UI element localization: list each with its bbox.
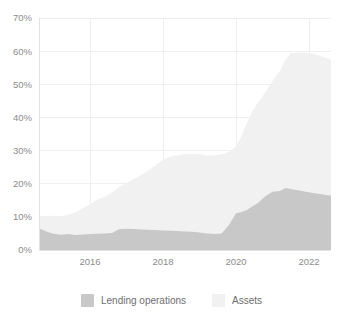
chart-legend: Lending operationsAssets xyxy=(0,294,343,307)
x-axis-tick-label: 2020 xyxy=(226,256,247,267)
x-axis-tick-label: 2022 xyxy=(299,256,320,267)
series-areas xyxy=(39,52,331,250)
y-axis-tick-label: 50% xyxy=(13,79,33,90)
y-axis-tick-label: 70% xyxy=(13,12,33,23)
y-axis-tick-label: 0% xyxy=(18,244,32,255)
legend-item-label: Lending operations xyxy=(101,294,186,307)
legend-swatch-lending-operations xyxy=(81,294,94,307)
chart-canvas: 0%10%20%30%40%50%60%70% 2016201820202022 xyxy=(0,0,343,314)
legend-swatch-assets xyxy=(212,294,225,307)
x-axis-tick-labels: 2016201820202022 xyxy=(80,256,320,267)
legend-item[interactable]: Lending operations xyxy=(81,294,186,307)
y-axis-tick-labels: 0%10%20%30%40%50%60%70% xyxy=(13,12,33,255)
legend-item-label: Assets xyxy=(232,294,262,307)
y-axis-tick-label: 30% xyxy=(13,145,33,156)
area-chart: 0%10%20%30%40%50%60%70% 2016201820202022… xyxy=(0,0,343,314)
x-axis-tick-label: 2018 xyxy=(153,256,174,267)
y-axis-tick-label: 10% xyxy=(13,211,33,222)
legend-item[interactable]: Assets xyxy=(212,294,262,307)
y-axis-tick-label: 40% xyxy=(13,112,33,123)
y-axis-tick-label: 20% xyxy=(13,178,33,189)
x-axis-tick-label: 2016 xyxy=(80,256,101,267)
y-axis-tick-label: 60% xyxy=(13,46,33,57)
